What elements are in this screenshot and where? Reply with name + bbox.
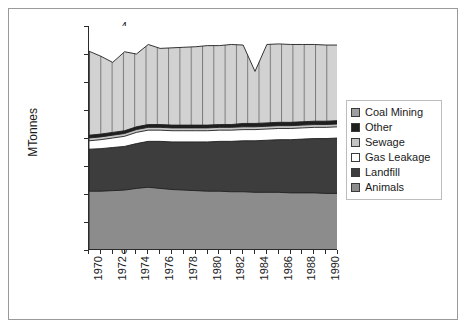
x-axis-tick-mark	[254, 250, 255, 254]
x-axis-tick-mark	[337, 250, 338, 254]
x-axis-tick-mark	[124, 250, 125, 254]
legend-swatch	[351, 183, 360, 192]
x-axis-tick-mark	[112, 250, 113, 254]
x-axis-tick-mark	[183, 250, 184, 254]
legend-item: Coal Mining	[351, 105, 437, 120]
legend-swatch	[351, 123, 360, 132]
x-axis-tick-label: 1972	[117, 256, 128, 280]
x-axis-tick-mark	[171, 250, 172, 254]
x-axis-tick-mark	[278, 250, 279, 254]
x-axis-tick-label: 1976	[164, 256, 175, 280]
area-band-animals	[89, 187, 337, 250]
x-axis-tick-mark	[135, 250, 136, 254]
y-axis-title: MTonnes	[26, 108, 40, 157]
x-axis-tick-mark	[218, 250, 219, 254]
x-axis-tick-mark	[325, 250, 326, 254]
x-axis-tick-mark	[88, 250, 89, 254]
legend-item: Sewage	[351, 135, 437, 150]
stacked-area-chart: MTonnes 00.511.522.533.54 19701972197419…	[0, 0, 468, 330]
x-axis-tick-label: 1990	[330, 256, 341, 280]
area-series-group	[89, 26, 337, 250]
legend-label: Sewage	[365, 137, 405, 148]
x-axis-tick-mark	[301, 250, 302, 254]
x-axis-tick-mark	[266, 250, 267, 254]
legend-label: Other	[365, 122, 393, 133]
x-axis-tick-mark	[159, 250, 160, 254]
legend-swatch	[351, 168, 360, 177]
legend-label: Animals	[365, 182, 404, 193]
legend-swatch	[351, 108, 360, 117]
x-axis-tick-label: 1984	[259, 256, 270, 280]
legend-item: Gas Leakage	[351, 150, 437, 165]
x-axis-tick-label: 1986	[283, 256, 294, 280]
x-axis-tick-label: 1988	[306, 256, 317, 280]
x-axis-tick-mark	[207, 250, 208, 254]
plot-area	[88, 26, 337, 250]
legend-item: Landfill	[351, 165, 437, 180]
legend-item: Other	[351, 120, 437, 135]
x-axis-tick-mark	[230, 250, 231, 254]
legend-item: Animals	[351, 180, 437, 195]
x-axis-tick-mark	[290, 250, 291, 254]
legend-swatch	[351, 153, 360, 162]
x-axis-tick-label: 1970	[93, 256, 104, 280]
legend-label: Coal Mining	[365, 107, 423, 118]
x-axis-tick-label: 1978	[188, 256, 199, 280]
x-axis-tick-mark	[313, 250, 314, 254]
legend-swatch	[351, 138, 360, 147]
legend-label: Gas Leakage	[365, 152, 430, 163]
chart-legend: Coal MiningOtherSewageGas LeakageLandfil…	[346, 100, 442, 200]
x-axis-tick-label: 1982	[235, 256, 246, 280]
x-axis-tick-mark	[100, 250, 101, 254]
x-axis-tick-mark	[242, 250, 243, 254]
x-axis-tick-label: 1980	[212, 256, 223, 280]
x-axis-tick-mark	[195, 250, 196, 254]
legend-label: Landfill	[365, 167, 400, 178]
x-axis-tick-mark	[147, 250, 148, 254]
x-axis-tick-label: 1974	[140, 256, 151, 280]
